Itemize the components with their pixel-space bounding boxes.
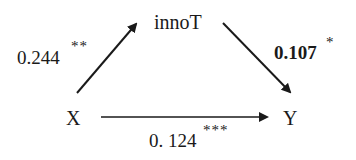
coef-x-to-y: 0. 124 xyxy=(149,131,197,150)
sig-x-to-innot: ** xyxy=(71,39,88,54)
node-innot: innoT xyxy=(154,12,202,32)
sig-x-to-y: *** xyxy=(203,123,229,138)
arrow-x-to-innot xyxy=(77,24,136,93)
coef-innot-to-y: 0.107 xyxy=(274,43,317,62)
node-x: X xyxy=(66,108,80,128)
sig-innot-to-y: * xyxy=(326,35,335,50)
node-y: Y xyxy=(283,108,297,128)
coef-x-to-innot: 0.244 xyxy=(17,48,60,67)
